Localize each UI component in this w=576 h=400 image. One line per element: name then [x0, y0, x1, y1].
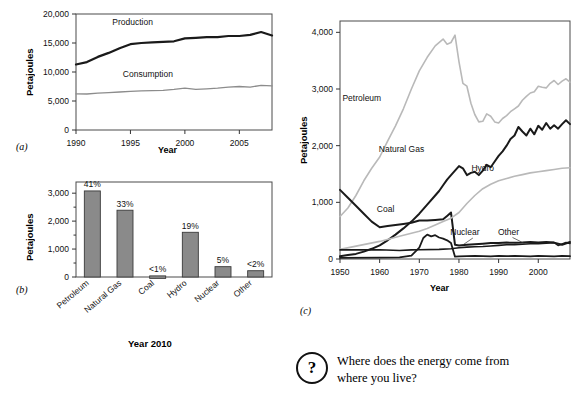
panel-b-bar [215, 267, 231, 277]
panel-b-category: Hydro [165, 278, 189, 300]
panel-b-bar-label: 5% [217, 255, 230, 265]
panel-b-bar [84, 191, 100, 277]
panel-b-ytick-label: 1,000 [48, 244, 70, 254]
panel-c-history: Petajoules 01,0002,0003,0004,00019501960… [290, 0, 576, 300]
reflection-question: ? Where does the energy come from where … [296, 352, 537, 387]
panel-b-category: Nuclear [192, 278, 221, 305]
panel-a-frame [76, 14, 272, 130]
panel-c-label-nuclear: Nuclear [450, 227, 479, 237]
panel-b-category: Other [231, 278, 254, 299]
panel-b-bar-label: 41% [84, 179, 101, 189]
question-mark-icon: ? [296, 352, 328, 384]
panel-c-tag: (c) [300, 305, 311, 316]
panel-c-ytick-label: 4,000 [312, 27, 334, 37]
panel-b-bar-label: <2% [247, 259, 265, 269]
panel-a-ylabel: Petajoules [24, 24, 35, 120]
panel-b-tag: (b) [16, 284, 28, 295]
panel-a-xtick-label: 2000 [175, 138, 194, 148]
panel-b-bar [150, 276, 166, 279]
panel-a-label-production: Production [112, 17, 153, 27]
panel-a-plot: 05,00010,00015,00020,0001990199520002005… [0, 0, 290, 160]
panel-b-bar-label: <1% [149, 264, 167, 274]
panel-a-xtick-label: 1995 [121, 138, 140, 148]
panel-c-label-hydro: Hydro [471, 163, 494, 173]
panel-b-bar [248, 271, 264, 277]
panel-a-tag: (a) [16, 141, 28, 152]
panel-b-frame [76, 182, 272, 277]
panel-c-xtick-label: 1960 [370, 267, 389, 277]
question-text: Where does the energy come from where yo… [337, 352, 537, 387]
panel-a-xlabel: Year [158, 145, 177, 155]
panel-c-plot: 01,0002,0003,0004,0001950196019701980199… [290, 0, 576, 300]
panel-b-ylabel: Petajoules [24, 192, 35, 282]
panel-c-label-other: Other [498, 227, 519, 237]
panel-b-bar-label: 33% [116, 199, 133, 209]
panel-b-category-label: Hydro [165, 278, 189, 300]
panel-c-xtick-label: 1980 [450, 267, 469, 277]
panel-b-bar [117, 210, 133, 277]
panel-b-bar-label: 19% [182, 221, 199, 231]
panel-c-ylabel: Petajoules [298, 90, 309, 190]
panel-c-label-natural-gas: Natural Gas [379, 144, 424, 154]
panel-b-category-label: Other [231, 278, 254, 299]
panel-c-series-petroleum [340, 35, 570, 216]
panel-c-label-petroleum: Petroleum [342, 93, 381, 103]
panel-b-bar [182, 232, 198, 277]
panel-b-ytick-label: 2,000 [48, 216, 70, 226]
panel-b-ytick-label: 3,000 [48, 188, 70, 198]
panel-a-ytick-label: 20,000 [43, 9, 69, 19]
panel-b-sources-2010: Petajoules 01,0002,0003,00041%Petroleum3… [0, 160, 290, 340]
panel-b-ytick-label: 0 [64, 272, 69, 282]
panel-a-ytick-label: 15,000 [43, 38, 69, 48]
panel-c-xtick-label: 1950 [331, 267, 350, 277]
panel-a-label-consumption: Consumption [123, 69, 173, 79]
energy-figure: Petajoules 05,00010,00015,00020,00019901… [0, 0, 576, 400]
panel-a-series-consumption [76, 85, 272, 94]
panel-c-xlabel: Year [430, 283, 449, 293]
panel-c-xtick-label: 2000 [529, 267, 548, 277]
panel-c-xtick-label: 1970 [410, 267, 429, 277]
panel-c-label-coal: Coal [377, 204, 395, 214]
panel-b-caption: Year 2010 [128, 338, 172, 349]
panel-c-ytick-label: 0 [328, 254, 333, 264]
panel-b-category-label: Coal [136, 278, 156, 297]
panel-a-xtick-label: 2005 [230, 138, 249, 148]
panel-a-production-consumption: Petajoules 05,00010,00015,00020,00019901… [0, 0, 290, 160]
panel-c-ytick-label: 3,000 [312, 84, 334, 94]
panel-c-xtick-label: 1990 [489, 267, 508, 277]
panel-a-ytick-label: 5,000 [48, 96, 70, 106]
panel-c-ytick-label: 2,000 [312, 141, 334, 151]
panel-b-plot: 01,0002,0003,00041%Petroleum33%Natural G… [0, 160, 290, 340]
panel-a-xtick-label: 1990 [67, 138, 86, 148]
panel-a-ytick-label: 10,000 [43, 67, 69, 77]
panel-a-series-production [76, 32, 272, 65]
panel-b-category: Coal [136, 278, 156, 297]
panel-a-ytick-label: 0 [64, 125, 69, 135]
panel-b-category-label: Nuclear [192, 278, 221, 305]
panel-c-ytick-label: 1,000 [312, 197, 334, 207]
